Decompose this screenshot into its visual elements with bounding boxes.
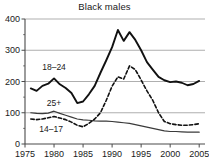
x-axis-label-1980: 1980: [44, 149, 64, 159]
chart-container: Black males 0100200300400 19751980198519…: [0, 0, 209, 161]
series-line-14-17: [31, 66, 199, 127]
x-axis-label-1985: 1985: [73, 149, 93, 159]
x-axis-label-2000: 2000: [160, 149, 180, 159]
y-axis-label-0: 0: [15, 139, 20, 149]
label-18-24: 18–24: [42, 62, 66, 72]
y-axis-labels-group: 0100200300400: [5, 14, 20, 149]
chart-plot-area: 0100200300400 19751980198519901995200020…: [0, 0, 209, 161]
series-annotations-group: 18–2425+14–17: [39, 62, 66, 134]
label-25plus: 25+: [47, 98, 61, 108]
x-axis-label-1995: 1995: [131, 149, 151, 159]
x-axis-label-1990: 1990: [102, 149, 122, 159]
y-axis-label-300: 300: [5, 45, 20, 55]
data-series-group: [31, 30, 199, 132]
x-axis-labels-group: 1975198019851990199520002005: [15, 149, 209, 159]
x-axis-label-1975: 1975: [15, 149, 35, 159]
y-axis-label-200: 200: [5, 77, 20, 87]
label-14-17: 14–17: [39, 124, 63, 134]
y-axis-label-100: 100: [5, 108, 20, 118]
y-axis-label-400: 400: [5, 14, 20, 24]
x-axis-label-2005: 2005: [189, 149, 209, 159]
